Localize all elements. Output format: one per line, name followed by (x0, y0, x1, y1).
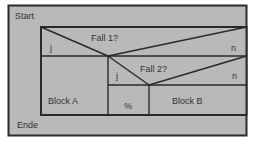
decision2-condition: Fall 2? (140, 64, 167, 74)
start-label: Start (15, 11, 34, 21)
block-a: Block A (48, 96, 78, 106)
decision1-yes-label: j (50, 43, 52, 53)
decision1-no-label: n (231, 43, 236, 53)
end-label: Ende (17, 120, 38, 130)
structogram-diagram (0, 0, 255, 149)
percent-block: % (124, 101, 132, 111)
block-b: Block B (172, 96, 203, 106)
decision1-condition: Fall 1? (91, 33, 118, 43)
decision2-no-label: n (232, 71, 237, 81)
decision2-yes-label: j (116, 71, 118, 81)
